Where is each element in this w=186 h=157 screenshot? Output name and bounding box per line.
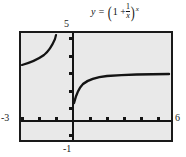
x-min-label: -3 — [1, 113, 9, 123]
y-min-label: -1 — [63, 144, 71, 154]
curve-right-branch — [74, 74, 169, 103]
equation-fraction: 1x — [126, 3, 130, 21]
curve-left-branch — [22, 35, 56, 65]
x-max-label: 6 — [175, 113, 180, 123]
equation-exponent: x — [136, 5, 139, 13]
equation-lhs: y = — [91, 6, 105, 17]
figure-container: y = (1 +1x)x 5 -3 6 -1 — [0, 0, 186, 157]
plot-frame — [19, 31, 173, 142]
plot-area — [21, 33, 171, 140]
curve-group — [21, 33, 171, 140]
left-paren: ( — [108, 4, 112, 21]
y-max-label: 5 — [64, 19, 69, 29]
equation-label: y = (1 +1x)x — [91, 3, 139, 21]
right-paren: ) — [131, 4, 135, 21]
fraction-numerator: 1 — [126, 3, 130, 11]
equation-base-left: 1 + — [113, 6, 126, 17]
fraction-denominator: x — [126, 11, 130, 20]
